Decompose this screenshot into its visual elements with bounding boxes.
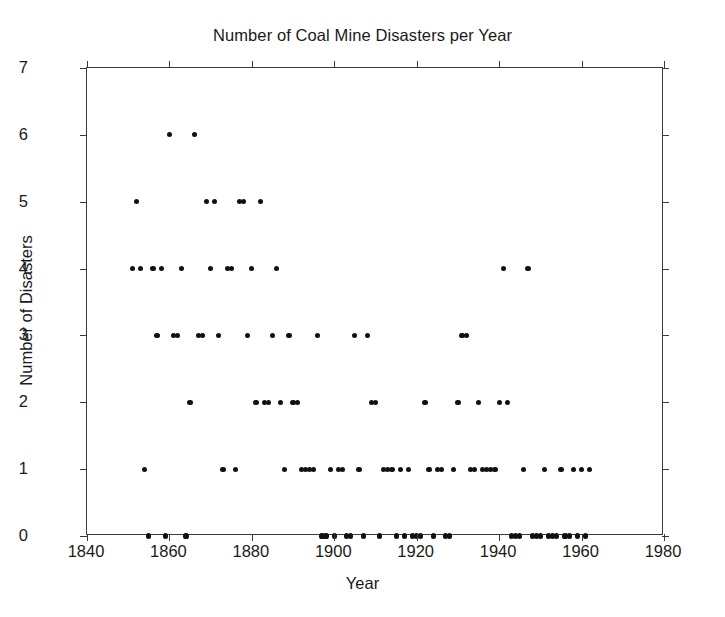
scatter-points-layer	[87, 68, 662, 534]
x-axis-tick-label: 1860	[133, 543, 203, 560]
y-axis-tick	[662, 335, 669, 336]
data-point	[554, 533, 559, 538]
data-point	[587, 467, 592, 472]
x-axis-tick	[334, 534, 335, 541]
data-point	[138, 266, 143, 271]
data-point	[134, 199, 139, 204]
data-point	[389, 467, 394, 472]
data-point	[476, 400, 481, 405]
data-point	[163, 533, 168, 538]
data-point	[567, 533, 572, 538]
data-point	[282, 467, 287, 472]
data-point	[192, 132, 197, 137]
x-axis-tick	[499, 61, 500, 68]
data-point	[422, 400, 427, 405]
data-point	[328, 467, 333, 472]
data-point	[249, 266, 254, 271]
data-point	[204, 199, 209, 204]
data-point	[233, 467, 238, 472]
data-point	[575, 533, 580, 538]
data-point	[505, 400, 510, 405]
data-point	[187, 400, 192, 405]
y-axis-tick	[662, 68, 669, 69]
data-point	[497, 400, 502, 405]
x-axis-tick	[334, 61, 335, 68]
data-point	[439, 467, 444, 472]
data-point	[315, 333, 320, 338]
data-point	[183, 533, 188, 538]
x-axis-tick-label: 1960	[546, 543, 616, 560]
data-point	[323, 533, 328, 538]
data-point	[377, 533, 382, 538]
data-point	[426, 467, 431, 472]
data-point	[208, 266, 213, 271]
data-point	[501, 266, 506, 271]
data-point	[492, 467, 497, 472]
data-point	[146, 533, 151, 538]
x-axis-tick	[664, 534, 665, 541]
data-point	[340, 467, 345, 472]
data-point	[295, 400, 300, 405]
y-axis-tick	[80, 469, 87, 470]
x-axis-tick-label: 1980	[628, 543, 698, 560]
data-point	[311, 467, 316, 472]
data-point	[455, 400, 460, 405]
data-point	[159, 266, 164, 271]
x-axis-tick-label: 1920	[381, 543, 451, 560]
x-axis-tick-label: 1900	[298, 543, 368, 560]
data-point	[258, 199, 263, 204]
data-point	[130, 266, 135, 271]
x-axis-title: Year	[0, 574, 725, 593]
data-point	[274, 266, 279, 271]
data-point	[517, 533, 522, 538]
x-axis-tick	[87, 61, 88, 68]
data-point	[348, 533, 353, 538]
plot-area	[86, 67, 663, 535]
data-point	[216, 333, 221, 338]
x-axis-tick	[417, 61, 418, 68]
x-axis-tick	[252, 534, 253, 541]
x-axis-tick	[582, 534, 583, 541]
x-axis-tick	[169, 61, 170, 68]
x-axis-tick	[417, 534, 418, 541]
data-point	[398, 467, 403, 472]
data-point	[212, 199, 217, 204]
data-point	[229, 266, 234, 271]
y-axis-tick	[662, 202, 669, 203]
data-point	[270, 333, 275, 338]
data-point	[464, 333, 469, 338]
x-axis-tick	[87, 534, 88, 541]
data-point	[175, 333, 180, 338]
data-point	[150, 266, 155, 271]
y-axis-tick-label: 6	[0, 126, 28, 143]
y-axis-tick	[662, 469, 669, 470]
y-axis-tick	[80, 335, 87, 336]
y-axis-tick	[80, 269, 87, 270]
data-point	[365, 333, 370, 338]
page-title: Number of Coal Mine Disasters per Year	[0, 26, 725, 45]
data-point	[200, 333, 205, 338]
data-point	[179, 266, 184, 271]
y-axis-tick	[80, 536, 87, 537]
x-axis-tick-label: 1940	[463, 543, 533, 560]
data-point	[286, 333, 291, 338]
data-point	[431, 533, 436, 538]
data-point	[583, 533, 588, 538]
y-axis-tick	[80, 402, 87, 403]
data-point	[352, 333, 357, 338]
data-point	[241, 199, 246, 204]
data-point	[356, 467, 361, 472]
data-point	[394, 533, 399, 538]
data-point	[521, 467, 526, 472]
y-axis-tick	[662, 402, 669, 403]
figure-canvas: Number of Coal Mine Disasters per Year 0…	[0, 0, 725, 617]
y-axis-tick-label: 7	[0, 59, 28, 76]
data-point	[558, 467, 563, 472]
data-point	[167, 132, 172, 137]
data-point	[402, 533, 407, 538]
data-point	[447, 533, 452, 538]
data-point	[579, 467, 584, 472]
x-axis-tick	[252, 61, 253, 68]
data-point	[245, 333, 250, 338]
y-axis-tick	[662, 269, 669, 270]
